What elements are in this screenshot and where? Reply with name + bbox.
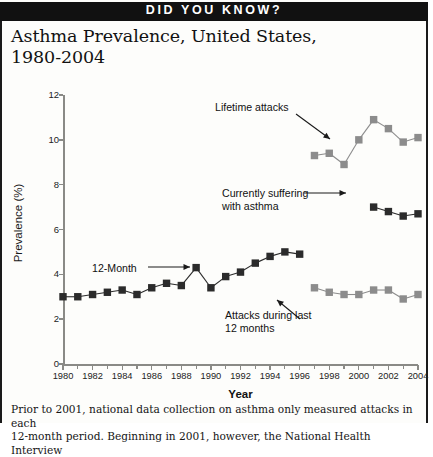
series-segment [107, 290, 122, 292]
y-tick-label-text: 12 [37, 89, 59, 100]
series-segment [167, 283, 182, 285]
page-title-line1: Asthma Prevalence, United States, [11, 26, 317, 46]
series-segment [93, 292, 108, 294]
data-point [311, 284, 318, 291]
x-tick-minor [166, 365, 167, 369]
x-tick [122, 365, 123, 370]
x-tick [92, 365, 93, 370]
x-tick [151, 365, 152, 370]
x-tick-minor [284, 365, 285, 369]
series-segment [403, 295, 418, 299]
series-segment [388, 290, 403, 299]
y-tick [59, 184, 63, 186]
leader-arrow-lifetime-attacks [296, 114, 330, 139]
data-point [414, 210, 421, 217]
x-tick [329, 365, 330, 370]
x-tick [299, 365, 300, 370]
series-segment [255, 256, 270, 263]
series-segment [152, 283, 167, 287]
y-tick-label: 4 [32, 268, 59, 278]
series-segment [181, 268, 196, 286]
annotation-12-month: 12-Month [92, 262, 137, 275]
x-tick-minor [225, 365, 226, 369]
x-tick-minor [196, 365, 197, 369]
y-tick-label: 6 [32, 224, 59, 234]
data-point [266, 253, 273, 260]
y-tick-label: 8 [32, 179, 59, 189]
footnote-line1: Prior to 2001, national data collection … [11, 403, 413, 429]
data-point [400, 295, 407, 302]
x-tick [62, 365, 63, 370]
data-point [355, 136, 362, 143]
y-tick-label-text: 8 [37, 179, 59, 190]
y-tick-label: 10 [32, 134, 59, 144]
series-lifetime-attacks [311, 116, 422, 168]
data-point [414, 291, 421, 298]
data-point [252, 259, 259, 266]
data-point [104, 289, 111, 296]
asthma-prevalence-chart: 024681012 198019821984198619881990199219… [0, 92, 428, 392]
leader-arrow-currently-suffering [304, 190, 346, 196]
x-tick [269, 365, 270, 370]
page-title: Asthma Prevalence, United States, 1980-2… [11, 26, 401, 68]
y-tick [59, 318, 63, 320]
annotation-lifetime-attacks: Lifetime attacks [215, 101, 289, 114]
x-tick [181, 365, 182, 370]
data-point [296, 250, 303, 257]
y-tick [59, 139, 63, 141]
y-tick [59, 94, 63, 96]
data-point [385, 208, 392, 215]
footnote-line2: 12-month period. Beginning in 2001, howe… [11, 430, 419, 457]
series-currently-suffering-with-asthma [370, 203, 422, 219]
x-tick-minor [373, 365, 374, 369]
x-tick-minor [403, 365, 404, 369]
x-tick [210, 365, 211, 370]
data-point [326, 289, 333, 296]
x-tick [358, 365, 359, 370]
footnote: Prior to 2001, national data collection … [11, 403, 419, 457]
series-attacks-during-last-12-months [311, 284, 422, 303]
data-point [400, 138, 407, 145]
data-point [237, 268, 244, 275]
series-segment [388, 212, 403, 216]
series-segment [374, 207, 389, 211]
series-segment [226, 272, 241, 276]
x-axis-label: Year [63, 388, 418, 400]
data-point [355, 291, 362, 298]
data-point [340, 161, 347, 168]
y-tick [59, 274, 63, 276]
y-tick-label-text: 0 [37, 358, 59, 369]
annotation-attacks-last-12-months: Attacks during last 12 months [225, 309, 312, 334]
series-segment [285, 252, 300, 254]
y-tick-label: 0 [32, 358, 59, 368]
series-segment [314, 288, 329, 292]
data-point [400, 212, 407, 219]
data-point [370, 116, 377, 123]
y-tick-label-text: 4 [37, 268, 59, 279]
series-segment [211, 277, 226, 288]
banner-title: DID YOU KNOW? [0, 3, 428, 17]
leader-arrow-12-month [148, 264, 190, 270]
series-segment [388, 129, 403, 142]
series-segment [122, 290, 137, 294]
x-tick-minor [314, 365, 315, 369]
data-point [178, 282, 185, 289]
data-point [163, 280, 170, 287]
series-segment [270, 252, 285, 256]
series-segment [403, 138, 418, 142]
series-segment [374, 120, 389, 129]
series-segment [196, 268, 211, 288]
y-tick-label-text: 6 [37, 224, 59, 235]
x-tick-minor [107, 365, 108, 369]
data-point [222, 273, 229, 280]
series-segment [241, 263, 256, 272]
series-segment [329, 153, 344, 164]
data-point [192, 264, 199, 271]
y-axis-line [63, 95, 65, 365]
series-segment [359, 290, 374, 294]
series-segment [344, 140, 359, 165]
data-point [281, 248, 288, 255]
data-point [118, 286, 125, 293]
y-tick-label-text: 2 [37, 313, 59, 324]
